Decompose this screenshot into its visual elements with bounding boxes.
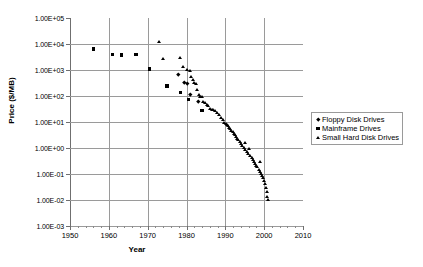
x-axis-minor-tick <box>233 226 234 228</box>
x-axis-tick <box>148 226 149 230</box>
data-point <box>194 82 198 85</box>
legend-label: Small Hard Disk Drives <box>322 133 399 142</box>
y-axis-tick <box>66 200 70 201</box>
x-axis-tick <box>70 226 71 230</box>
x-axis-minor-tick <box>155 226 156 228</box>
triangle-marker-icon <box>314 133 322 142</box>
x-axis-tick <box>225 226 226 230</box>
data-point <box>265 190 269 193</box>
data-point <box>200 95 204 98</box>
legend-item: Mainframe Drives <box>314 124 399 133</box>
x-axis-tick-label: 1970 <box>128 232 168 240</box>
data-point <box>262 179 266 182</box>
data-point <box>200 109 203 112</box>
data-point <box>266 198 270 201</box>
data-point <box>195 88 199 91</box>
x-axis-minor-tick <box>194 226 195 228</box>
x-axis-minor-tick <box>171 226 172 228</box>
x-axis-tick <box>264 226 265 230</box>
y-axis-title: Price ($/MB) <box>7 41 16 161</box>
x-axis-minor-tick <box>256 226 257 228</box>
x-axis-minor-tick <box>163 226 164 228</box>
y-axis-tick-label: 1.00E-03 <box>36 223 64 230</box>
data-point <box>92 47 95 50</box>
x-axis-minor-tick <box>101 226 102 228</box>
y-axis-tick-label: 1.00E+03 <box>35 67 64 74</box>
x-axis-title: Year <box>97 245 177 254</box>
x-axis-minor-tick <box>295 226 296 228</box>
x-axis-tick-label: 1980 <box>167 232 207 240</box>
y-axis-tick <box>66 122 70 123</box>
data-point <box>247 147 251 150</box>
gridline-vertical <box>187 18 188 226</box>
data-point <box>188 69 192 72</box>
x-axis-minor-tick <box>86 226 87 228</box>
y-axis-tick <box>66 70 70 71</box>
x-axis-minor-tick <box>210 226 211 228</box>
x-axis-minor-tick <box>179 226 180 228</box>
x-axis-minor-tick <box>272 226 273 228</box>
legend-item: Floppy Disk Drives <box>314 115 399 124</box>
x-axis-tick <box>187 226 188 230</box>
y-axis-tick <box>66 148 70 149</box>
x-axis-minor-tick <box>93 226 94 228</box>
data-point <box>178 56 182 59</box>
diamond-marker-icon <box>314 115 322 124</box>
data-point <box>258 160 262 163</box>
x-axis-minor-tick <box>132 226 133 228</box>
data-point <box>187 98 190 101</box>
x-axis-minor-tick <box>287 226 288 228</box>
y-axis-tick <box>66 96 70 97</box>
x-axis-tick-label: 2000 <box>244 232 284 240</box>
y-axis-tick <box>66 174 70 175</box>
chart-legend: Floppy Disk DrivesMainframe DrivesSmall … <box>311 112 403 145</box>
chart-figure: 1.00E+051.00E+041.00E+031.00E+021.00E+01… <box>0 0 423 267</box>
data-point <box>243 141 247 144</box>
x-axis-minor-tick <box>124 226 125 228</box>
y-axis-tick-label: 1.00E+04 <box>35 41 64 48</box>
x-axis-minor-tick <box>241 226 242 228</box>
data-point <box>157 40 161 43</box>
x-axis-minor-tick <box>140 226 141 228</box>
x-axis-tick-label: 1990 <box>205 232 245 240</box>
y-axis-tick <box>66 44 70 45</box>
legend-label: Floppy Disk Drives <box>322 115 385 124</box>
data-point <box>263 182 267 185</box>
x-axis-minor-tick <box>78 226 79 228</box>
legend-label: Mainframe Drives <box>322 124 381 133</box>
y-axis-tick <box>66 18 70 19</box>
x-axis-minor-tick <box>117 226 118 228</box>
x-axis-minor-tick <box>218 226 219 228</box>
data-point <box>264 186 268 189</box>
data-point <box>148 67 151 70</box>
data-point <box>120 53 123 56</box>
y-axis-tick-label: 1.00E+05 <box>35 15 64 22</box>
x-axis-minor-tick <box>280 226 281 228</box>
x-axis-tick-label: 2010 <box>283 232 323 240</box>
data-point <box>161 57 165 60</box>
y-axis-tick-label: 1.00E+01 <box>35 119 64 126</box>
x-axis-tick <box>303 226 304 230</box>
x-axis-tick-label: 1950 <box>50 232 90 240</box>
data-point <box>111 53 114 56</box>
y-axis-tick-label: 1.00E+00 <box>35 145 64 152</box>
gridline-vertical <box>148 18 149 226</box>
y-axis-tick-label: 1.00E+02 <box>35 93 64 100</box>
y-axis-tick-label: 1.00E-02 <box>36 197 64 204</box>
x-axis-minor-tick <box>249 226 250 228</box>
y-axis-tick-label: 1.00E-01 <box>36 171 64 178</box>
x-axis-minor-tick <box>202 226 203 228</box>
data-point <box>179 91 182 94</box>
data-point <box>165 84 168 87</box>
data-point <box>134 53 137 56</box>
legend-item: Small Hard Disk Drives <box>314 133 399 142</box>
x-axis-tick <box>109 226 110 230</box>
gridline-vertical <box>109 18 110 226</box>
square-marker-icon <box>314 124 322 133</box>
x-axis-tick-label: 1960 <box>89 232 129 240</box>
